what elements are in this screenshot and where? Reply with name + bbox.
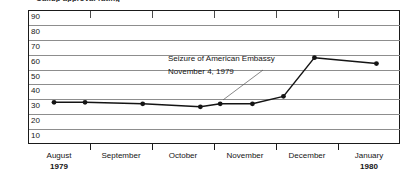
chart-title: Gallup approval rating [36,0,120,2]
y-axis-label-30: 30 [31,100,57,111]
gridline-20 [29,114,400,115]
axis-left-border [28,10,29,144]
x-top-tick-4 [276,11,277,18]
annotation-seizure-of-embassy: Seizure of American Embassy November 4, … [168,53,275,78]
x-top-tick-1 [90,11,91,18]
y-axis-label-80: 80 [31,26,57,37]
x-tick-3 [214,144,215,150]
axis-right-border [399,10,400,144]
line-chart-figure: Gallup approval rating 90807060504030201… [0,0,415,181]
x-tick-1 [90,144,91,150]
gridline-70 [29,40,400,41]
gridline-10 [29,129,400,130]
y-axis-label-40: 40 [31,85,57,96]
gridline-40 [29,84,400,85]
gridline-30 [29,99,400,100]
x-axis-month: September [101,151,140,160]
x-top-tick-2 [152,11,153,18]
x-axis-month: August [47,151,72,160]
x-axis-month: January [355,151,383,160]
x-axis-label-january: January1980 [329,151,409,172]
x-axis-month: November [227,151,264,160]
x-axis-month: October [169,151,197,160]
x-axis-year: 1980 [329,161,409,172]
x-axis-month: December [289,151,326,160]
y-axis-label-50: 50 [31,71,57,82]
y-axis-label-10: 10 [31,130,57,141]
annotation-line-2: November 4, 1979 [168,66,275,79]
gridline-80 [29,25,400,26]
x-axis-year: 1979 [19,161,99,172]
y-axis-label-90: 90 [31,11,57,22]
y-axis-label-60: 60 [31,56,57,67]
x-tick-5 [338,144,339,150]
x-tick-4 [276,144,277,150]
y-axis-label-20: 20 [31,115,57,126]
y-axis-label-70: 70 [31,41,57,52]
x-tick-2 [152,144,153,150]
annotation-line-1: Seizure of American Embassy [168,53,275,66]
x-top-tick-5 [338,11,339,18]
x-top-tick-3 [214,11,215,18]
